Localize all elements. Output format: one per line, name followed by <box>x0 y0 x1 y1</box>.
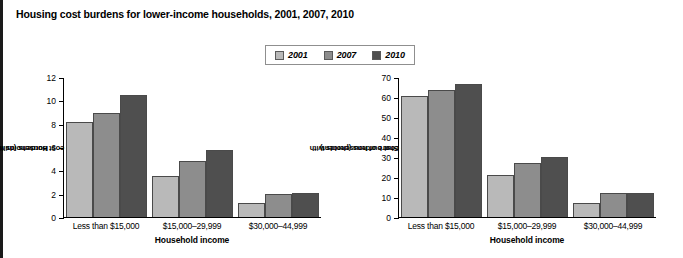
x-axis-labels-left: Less than $15,000$15,000–29,999$30,000–4… <box>63 221 321 231</box>
chart-panel-right: Share of households with severe cost bur… <box>352 78 672 253</box>
y-tick-mark <box>59 218 64 219</box>
legend-item-2001: 2001 <box>275 50 308 60</box>
y-tick-label: 8 <box>51 120 56 130</box>
bar-group <box>64 78 150 217</box>
bar-2010 <box>206 150 233 217</box>
bar-2007 <box>179 161 206 217</box>
x-tick-label: $30,000–44,999 <box>570 221 656 231</box>
bar-groups-left <box>64 78 321 217</box>
bar-2007 <box>93 113 120 217</box>
bar-2001 <box>238 203 265 217</box>
bar-2010 <box>541 157 568 217</box>
legend-swatch-2010 <box>372 51 381 60</box>
x-tick-label: Less than $15,000 <box>398 221 484 231</box>
y-tick-label: 10 <box>382 193 391 203</box>
y-tick-label: 70 <box>382 73 391 83</box>
plot-area-left: 024681012 <box>63 78 321 218</box>
legend-label-2007: 2007 <box>337 50 357 60</box>
bar-group <box>485 78 571 217</box>
figure-frame: Housing cost burdens for lower-income ho… <box>0 0 683 258</box>
legend-label-2010: 2010 <box>385 50 405 60</box>
x-tick-label: $15,000–29,999 <box>149 221 235 231</box>
bar-2001 <box>573 203 600 217</box>
bar-2010 <box>627 193 654 217</box>
bar-2001 <box>487 175 514 217</box>
bar-group <box>399 78 485 217</box>
x-axis-line-right <box>398 217 656 218</box>
x-tick-label: $15,000–29,999 <box>484 221 570 231</box>
y-tick-label: 0 <box>51 213 56 223</box>
bar-group <box>150 78 236 217</box>
bar-2001 <box>152 176 179 217</box>
y-tick-mark <box>394 218 399 219</box>
x-axis-title-left: Household income <box>63 235 321 245</box>
y-tick-label: 10 <box>47 96 56 106</box>
bar-2001 <box>401 96 428 217</box>
legend-swatch-2007 <box>324 51 333 60</box>
bar-2010 <box>120 95 147 217</box>
x-axis-labels-right: Less than $15,000$15,000–29,999$30,000–4… <box>398 221 656 231</box>
bar-2010 <box>455 84 482 217</box>
y-tick-label: 60 <box>382 93 391 103</box>
y-axis-title-right: Share of households with severe cost bur… <box>352 78 374 218</box>
y-tick-label: 20 <box>382 173 391 183</box>
bar-2007 <box>265 194 292 217</box>
x-axis-line-left <box>63 217 321 218</box>
bar-2007 <box>514 163 541 217</box>
figure-title: Housing cost burdens for lower-income ho… <box>16 8 354 20</box>
y-tick-label: 4 <box>51 166 56 176</box>
legend-item-2010: 2010 <box>372 50 405 60</box>
y-tick-label: 12 <box>47 73 56 83</box>
y-axis-title-left: Households with severe cost burdens (mil… <box>17 78 39 218</box>
x-tick-label: Less than $15,000 <box>63 221 149 231</box>
bar-2007 <box>600 193 627 217</box>
chart-legend: 2001 2007 2010 <box>265 45 415 65</box>
y-tick-label: 50 <box>382 113 391 123</box>
y-tick-label: 0 <box>386 213 391 223</box>
bar-2001 <box>66 122 93 217</box>
bar-2010 <box>292 193 319 217</box>
legend-label-2001: 2001 <box>288 50 308 60</box>
legend-item-2007: 2007 <box>324 50 357 60</box>
x-axis-title-right: Household income <box>398 235 656 245</box>
bar-group <box>570 78 656 217</box>
legend-swatch-2001 <box>275 51 284 60</box>
bar-2007 <box>428 90 455 217</box>
plot-area-right: 010203040506070 <box>398 78 656 218</box>
chart-panel-left: Households with severe cost burdens (mil… <box>17 78 337 253</box>
x-tick-label: $30,000–44,999 <box>235 221 321 231</box>
y-tick-label: 40 <box>382 133 391 143</box>
y-tick-label: 30 <box>382 153 391 163</box>
y-tick-label: 2 <box>51 190 56 200</box>
y-tick-label: 6 <box>51 143 56 153</box>
bar-groups-right <box>399 78 656 217</box>
